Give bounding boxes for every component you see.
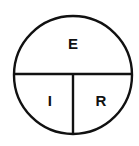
circle-diagram: E I R: [0, 0, 139, 146]
segment-label-top: E: [68, 35, 78, 52]
segment-label-bottom-left: I: [48, 92, 52, 109]
segment-label-bottom-right: R: [95, 92, 106, 109]
circle-diagram-canvas: E I R: [0, 0, 139, 146]
